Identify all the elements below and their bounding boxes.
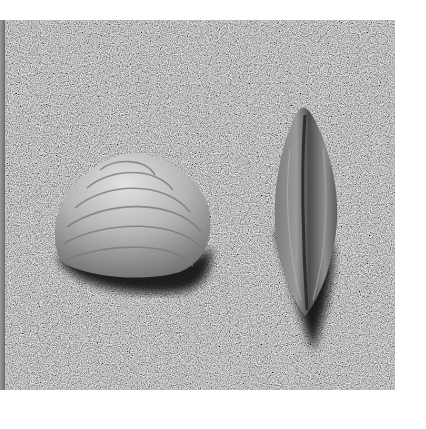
seashell-photo xyxy=(5,20,395,390)
